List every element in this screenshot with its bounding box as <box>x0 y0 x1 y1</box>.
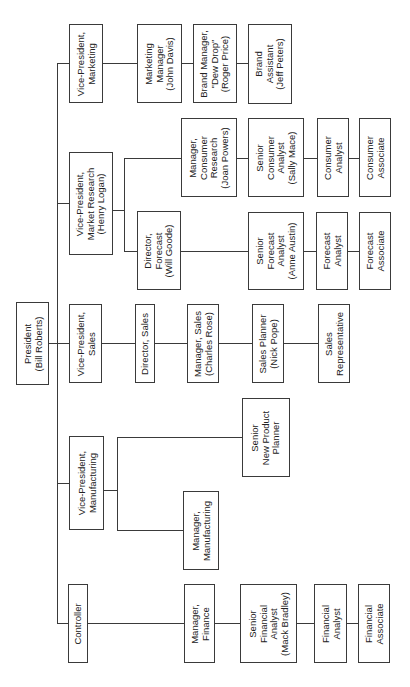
node-director-forecast: Director, Forecast (Will Goode) <box>137 211 181 290</box>
node-director-sales: Director, Sales <box>135 304 155 383</box>
node-brand-assistant: Brand Assistant (Jeff Peters) <box>248 24 292 104</box>
node-label: Forecast Associate <box>365 230 386 271</box>
node-label: Brand Manager, "Dew Drop" (Roger Price) <box>199 30 231 98</box>
node-vp-market-research: Vice-President, Market Research (Henry L… <box>69 152 113 255</box>
node-manager-consumer-research: Manager, Consumer Research (Joan Powers) <box>181 118 237 197</box>
node-president: President (Bill Roberts) <box>16 302 49 385</box>
node-senior-financial-analyst: Senior Financial Analyst (Mack Bradley) <box>240 584 297 663</box>
node-financial-analyst: Financial Analyst <box>314 584 347 663</box>
node-consumer-analyst: Consumer Analyst <box>317 118 349 197</box>
node-label: Manager, Manufacturing <box>191 500 212 560</box>
node-label: Senior Financial Analyst (Mack Bradley) <box>248 592 290 656</box>
org-chart: President (Bill Roberts) Vice-President,… <box>0 0 410 687</box>
node-label: Sales Planner (Nick Pope) <box>258 314 279 373</box>
node-label: Senior Forecast Analyst (Anne Austin) <box>255 222 297 279</box>
node-label: Senior New Product Planner <box>250 410 282 464</box>
node-controller: Controller <box>68 584 88 663</box>
node-label: Brand Assistant (Jeff Peters) <box>254 38 286 90</box>
connector-manager-mfg <box>117 530 183 531</box>
node-brand-manager: Brand Manager, "Dew Drop" (Roger Price) <box>193 24 237 103</box>
node-sales-planner: Sales Planner (Nick Pope) <box>252 304 284 383</box>
node-label: Financial Analyst <box>320 604 341 642</box>
node-label: Forecast Analyst <box>322 233 343 270</box>
node-manager-sales: Manager, Sales (Charles Rose) <box>187 304 219 383</box>
node-label: Vice-President, Marketing <box>76 31 97 95</box>
node-manager-finance: Manager, Finance <box>184 584 215 663</box>
node-label: Vice-President, Sales <box>75 311 96 375</box>
node-sales-representative: Sales Representative <box>318 304 350 383</box>
node-label: President (Bill Roberts) <box>22 316 43 371</box>
node-label: Director, Forecast (Will Goode) <box>143 224 175 277</box>
node-senior-new-product-planner: Senior New Product Planner <box>242 398 290 477</box>
node-label: Senior Consumer Analyst (Sally Mace) <box>255 131 297 184</box>
node-label: Marketing Manager (John Davis) <box>144 37 176 90</box>
connector-mfg-bracket <box>117 437 118 531</box>
node-financial-associate: Financial Associate <box>358 584 390 663</box>
node-label: Manager, Sales (Charles Rose) <box>193 310 214 376</box>
connector-mfg-out <box>104 490 118 491</box>
connector-vp-marketing <box>57 63 69 64</box>
node-senior-forecast-analyst: Senior Forecast Analyst (Anne Austin) <box>248 212 304 290</box>
node-label: Consumer Analyst <box>323 136 344 180</box>
node-label: Director, Sales <box>140 313 151 375</box>
connector-vp-market-research <box>57 203 69 204</box>
node-consumer-associate: Consumer Associate <box>359 118 391 197</box>
node-label: Controller <box>73 603 84 644</box>
connector-mr-bracket <box>124 158 125 251</box>
node-label: Consumer Associate <box>365 136 386 180</box>
node-label: Vice-President, Manufacturing <box>76 451 97 515</box>
node-senior-consumer-analyst: Senior Consumer Analyst (Sally Mace) <box>248 118 304 197</box>
node-vp-sales: Vice-President, Sales <box>69 304 102 383</box>
node-label: Vice-President, Market Research (Henry L… <box>75 167 107 239</box>
node-vp-marketing: Vice-President, Marketing <box>69 24 103 103</box>
node-vp-manufacturing: Vice-President, Manufacturing <box>69 436 104 530</box>
node-label: Sales Representative <box>324 312 345 376</box>
node-manager-manufacturing: Manager, Manufacturing <box>183 491 219 570</box>
node-forecast-analyst: Forecast Analyst <box>316 212 348 290</box>
node-marketing-manager: Marketing Manager (John Davis) <box>137 24 182 103</box>
node-label: Manager, Consumer Research (Joan Powers) <box>188 127 230 188</box>
connector-vp-manufacturing <box>57 483 69 484</box>
node-label: Manager, Finance <box>189 604 210 644</box>
connector-new-product <box>117 437 242 438</box>
node-forecast-associate: Forecast Associate <box>359 212 391 290</box>
node-label: Financial Associate <box>364 603 385 644</box>
